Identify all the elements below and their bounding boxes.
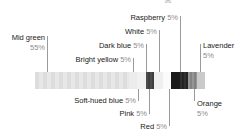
segment-white[interactable] (163, 72, 172, 89)
callout-orange-label: Orange (197, 99, 222, 108)
segment-pink[interactable] (154, 72, 163, 89)
segment-dark-blue[interactable] (146, 72, 155, 89)
callout-raspberry[interactable]: Raspberry 5% (92, 13, 178, 22)
callout-orange[interactable]: Orange 5% (197, 99, 247, 118)
stacked-bar-chart: ⌘ Mid green 55% Bright yellow (0, 0, 250, 135)
leader-line-raspberry (180, 16, 181, 72)
callout-pink-value: 5% (136, 109, 147, 118)
leader-line-bright-yellow (133, 58, 134, 72)
callout-mid-green-label: Mid green (12, 33, 45, 42)
segment-bright-yellow[interactable] (129, 72, 138, 89)
leader-line-lavender (200, 44, 201, 72)
callout-pink[interactable]: Pink 5% (75, 109, 147, 118)
callout-mid-green-value: 55% (0, 43, 45, 53)
segment-raspberry[interactable] (180, 72, 189, 89)
callout-red[interactable]: Red 5% (95, 122, 167, 131)
callout-lavender[interactable]: Lavender 5% (203, 41, 250, 60)
callout-white[interactable]: White 5% (80, 27, 157, 36)
callout-pink-label: Pink (119, 109, 134, 118)
callout-raspberry-value: 5% (167, 13, 178, 22)
callout-mid-green[interactable]: Mid green 55% (0, 33, 45, 52)
leader-line-orange (194, 89, 195, 101)
segment-soft-hued-blue[interactable] (137, 72, 146, 89)
callout-dark-blue-label: Dark blue (99, 41, 131, 50)
callout-red-value: 5% (156, 122, 167, 131)
callout-bright-yellow[interactable]: Bright yellow 5% (43, 55, 131, 64)
callout-soft-hued-blue[interactable]: Soft-hued blue 5% (40, 96, 136, 105)
callout-bright-yellow-label: Bright yellow (76, 55, 119, 64)
callout-white-label: White (125, 27, 144, 36)
callout-red-label: Red (140, 122, 154, 131)
leader-line-dark-blue (146, 44, 147, 72)
callout-dark-blue-value: 5% (133, 41, 144, 50)
callout-dark-blue[interactable]: Dark blue 5% (60, 41, 144, 50)
callout-soft-hued-blue-value: 5% (125, 96, 136, 105)
segment-orange[interactable] (188, 72, 197, 89)
callout-lavender-value: 5% (203, 51, 250, 61)
callout-orange-value: 5% (197, 109, 247, 119)
segment-mid-green[interactable] (35, 72, 129, 89)
bar-track (35, 72, 205, 89)
leader-line-pink (149, 89, 150, 114)
leader-line-mid-green (47, 36, 48, 72)
leader-line-white (159, 30, 160, 72)
cropped-artifact-icon: ⌘ (164, 0, 173, 5)
segment-lavender[interactable] (197, 72, 206, 89)
segment-red[interactable] (171, 72, 180, 89)
callout-bright-yellow-value: 5% (120, 55, 131, 64)
leader-line-soft-hued-blue (138, 89, 139, 101)
callout-raspberry-label: Raspberry (130, 13, 165, 22)
callout-white-value: 5% (146, 27, 157, 36)
callout-soft-hued-blue-label: Soft-hued blue (74, 96, 123, 105)
callout-lavender-label: Lavender (203, 41, 234, 50)
leader-line-red (169, 89, 170, 126)
